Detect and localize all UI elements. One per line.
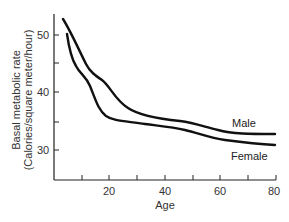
male-label: Male	[232, 117, 256, 129]
x-axis-title: Age	[155, 199, 175, 211]
y-tick-40: 40	[37, 86, 49, 98]
y-ticks	[54, 35, 59, 150]
y-axis-subtitle: (Calories/square meter/hour)	[22, 30, 34, 171]
chart: 50 40 30 20 40 60 80 Age Basal metabolic…	[0, 0, 289, 222]
x-ticks	[82, 175, 276, 180]
y-tick-30: 30	[37, 144, 49, 156]
y-axis-title: Basal metabolic rate	[10, 50, 22, 150]
y-tick-50: 50	[37, 29, 49, 41]
x-tick-40: 40	[159, 185, 171, 197]
x-tick-20: 20	[103, 185, 115, 197]
x-tick-60: 60	[214, 185, 226, 197]
x-tick-80: 80	[268, 185, 280, 197]
female-label: Female	[231, 150, 268, 162]
